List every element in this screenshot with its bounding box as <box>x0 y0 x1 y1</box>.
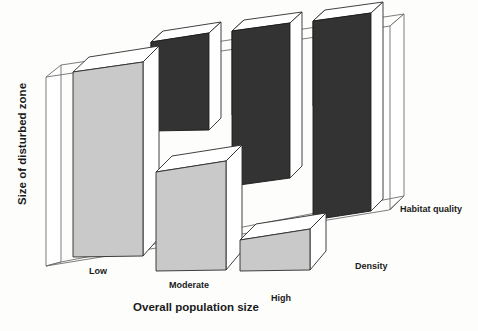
bar-density-high <box>240 213 326 271</box>
bar-density-moderate <box>156 145 242 271</box>
x-tick-label-high: High <box>271 293 291 303</box>
x-tick-label-low: Low <box>89 266 108 276</box>
depth-label-habitat-quality: Habitat quality <box>400 204 462 214</box>
chart-right-wall <box>390 14 404 210</box>
x-axis-title: Overall population size <box>133 301 259 313</box>
bar-density-low <box>73 46 159 257</box>
chart-left-wall <box>46 65 61 266</box>
x-tick-label-moderate: Moderate <box>169 280 209 290</box>
chart-figure: Size of disturbed zone Overall populatio… <box>0 0 478 331</box>
bar-chart-3d-canvas: Size of disturbed zone Overall populatio… <box>0 0 478 331</box>
y-axis-title: Size of disturbed zone <box>16 83 28 205</box>
depth-label-density: Density <box>355 261 388 271</box>
